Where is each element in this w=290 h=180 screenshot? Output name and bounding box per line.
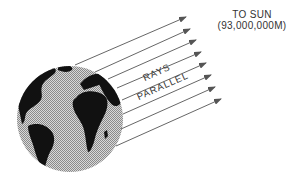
ray-1 [75, 17, 186, 65]
to-sun-title: TO SUN [212, 9, 290, 20]
earth-globe [17, 65, 124, 180]
ray-8 [116, 99, 221, 146]
sun-distance: (93,000,000M) [212, 20, 290, 31]
to-sun-label: TO SUN (93,000,000M) [212, 9, 290, 31]
